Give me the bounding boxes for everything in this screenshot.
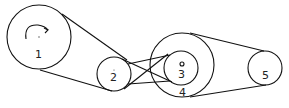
clockwise-arrow-icon	[26, 25, 48, 39]
pulley-1: 1	[7, 5, 71, 69]
pulley-5: 5	[248, 51, 282, 85]
pulley-1-label: 1	[35, 48, 42, 61]
pulley-2: 2	[97, 57, 131, 91]
pulley-3-label: 3	[178, 68, 185, 81]
pulley-2-label: 2	[110, 71, 117, 84]
belt-pulley-diagram: 1 2 4 3 5	[0, 0, 289, 108]
pulley-3: 3	[164, 51, 198, 85]
pulley-5-label: 5	[262, 69, 269, 82]
pulley-4-label: 4	[179, 86, 186, 99]
belt-4-5	[190, 33, 266, 97]
